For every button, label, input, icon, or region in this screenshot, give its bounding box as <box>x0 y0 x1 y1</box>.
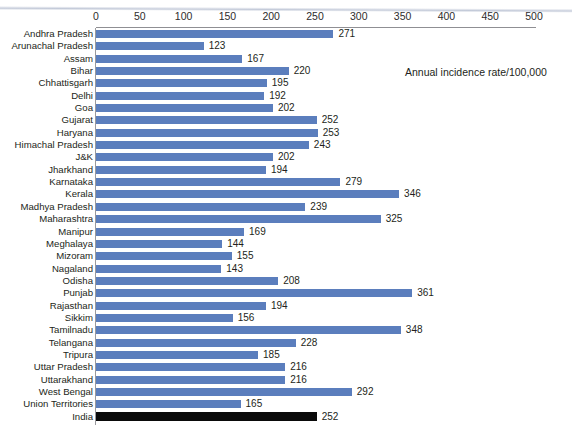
bar-track: 195 <box>0 77 572 89</box>
bar-track: 208 <box>0 275 572 287</box>
bar <box>96 55 242 63</box>
bar <box>96 302 266 310</box>
bar <box>96 153 273 161</box>
bar-track: 143 <box>0 263 572 275</box>
bar-track: 239 <box>0 201 572 213</box>
bar-track: 144 <box>0 238 572 250</box>
bar <box>96 42 204 50</box>
bar <box>96 326 401 334</box>
bar-row: Chhattisgarh195 <box>0 77 572 89</box>
bar <box>96 314 233 322</box>
bar-track: 194 <box>0 300 572 312</box>
bar-value-label: 169 <box>249 226 266 238</box>
bar <box>96 376 285 384</box>
bar-row: Tripura185 <box>0 349 572 361</box>
bar-rows: Andhra Pradesh271Arunachal Pradesh123Ass… <box>0 28 572 423</box>
bar-track: 271 <box>0 28 572 40</box>
bar-row: Madhya Pradesh239 <box>0 201 572 213</box>
bar-chart: 050100150200250300350400450500 Andhra Pr… <box>0 0 572 442</box>
x-tick-label: 500 <box>525 10 543 22</box>
x-tick-label: 450 <box>481 10 499 22</box>
bar-value-label: 194 <box>271 300 288 312</box>
bar-row: Andhra Pradesh271 <box>0 28 572 40</box>
bar-row: Arunachal Pradesh123 <box>0 40 572 52</box>
bar-row: West Bengal292 <box>0 386 572 398</box>
bar-value-label: 192 <box>269 90 286 102</box>
bar <box>96 178 340 186</box>
bar-row: Himachal Pradesh243 <box>0 139 572 151</box>
bar-value-label: 216 <box>290 374 307 386</box>
bar-row: Rajasthan194 <box>0 300 572 312</box>
x-tick-label: 100 <box>175 10 193 22</box>
bar-value-label: 165 <box>246 398 263 410</box>
bar-value-label: 208 <box>283 275 300 287</box>
bar <box>96 339 296 347</box>
bar-track: 325 <box>0 213 572 225</box>
bar-row: Punjab361 <box>0 287 572 299</box>
bar-value-label: 239 <box>310 201 327 213</box>
bar-track: 253 <box>0 127 572 139</box>
x-tick-label: 0 <box>93 10 99 22</box>
bar-track: 156 <box>0 312 572 324</box>
x-tick-label: 350 <box>394 10 412 22</box>
bar-value-label: 220 <box>294 65 311 77</box>
bar-row: Kerala346 <box>0 188 572 200</box>
bar-track: 165 <box>0 398 572 410</box>
bar-row: Goa202 <box>0 102 572 114</box>
bar-track: 216 <box>0 361 572 373</box>
bar-value-label: 216 <box>290 361 307 373</box>
bar-row: Nagaland143 <box>0 263 572 275</box>
bar <box>96 129 318 137</box>
bar-row: Manipur169 <box>0 226 572 238</box>
bar <box>96 67 289 75</box>
bar-value-label: 202 <box>278 102 295 114</box>
bar <box>96 240 222 248</box>
bar <box>96 412 317 421</box>
bar-value-label: 252 <box>322 411 339 423</box>
bar-value-label: 155 <box>237 250 254 262</box>
x-tick-label: 250 <box>306 10 324 22</box>
bar-value-label: 228 <box>301 337 318 349</box>
bar-row: Maharashtra325 <box>0 213 572 225</box>
bar-track: 194 <box>0 164 572 176</box>
bar <box>96 277 278 285</box>
bar-value-label: 243 <box>314 139 331 151</box>
bar-value-label: 123 <box>209 40 226 52</box>
chart-annotation: Annual incidence rate/100,000 <box>405 66 547 79</box>
bar-track: 279 <box>0 176 572 188</box>
bar <box>96 351 258 359</box>
bar <box>96 166 266 174</box>
bar <box>96 363 285 371</box>
bar-track: 202 <box>0 151 572 163</box>
bar <box>96 116 317 124</box>
bar-track: 192 <box>0 90 572 102</box>
bar <box>96 215 381 223</box>
bar-value-label: 348 <box>406 324 423 336</box>
bar-track: 252 <box>0 411 572 423</box>
bar-value-label: 156 <box>238 312 255 324</box>
bar-value-label: 252 <box>322 114 339 126</box>
bar-value-label: 194 <box>271 164 288 176</box>
bar-row: Tamilnadu348 <box>0 324 572 336</box>
bar-track: 252 <box>0 114 572 126</box>
bar <box>96 289 412 297</box>
bar-row: Telangana228 <box>0 337 572 349</box>
bar-row: Assam167 <box>0 53 572 65</box>
bar-row: J&K202 <box>0 151 572 163</box>
bar <box>96 92 264 100</box>
bar-track: 169 <box>0 226 572 238</box>
bar-row: Haryana253 <box>0 127 572 139</box>
x-tick-label: 200 <box>262 10 280 22</box>
bar-track: 228 <box>0 337 572 349</box>
bar-row: Karnataka279 <box>0 176 572 188</box>
bar <box>96 252 232 260</box>
bar-value-label: 325 <box>386 213 403 225</box>
bar-value-label: 195 <box>272 77 289 89</box>
bar-row: Sikkim156 <box>0 312 572 324</box>
bar <box>96 388 352 396</box>
bar-track: 346 <box>0 188 572 200</box>
bar-value-label: 202 <box>278 151 295 163</box>
x-tick-label: 50 <box>134 10 146 22</box>
bar-value-label: 271 <box>338 28 355 40</box>
bar-value-label: 346 <box>404 188 421 200</box>
